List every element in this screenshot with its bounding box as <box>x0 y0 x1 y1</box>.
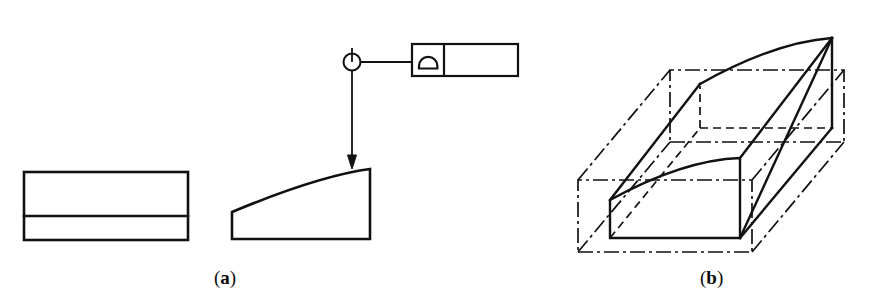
callout-box <box>412 44 518 76</box>
callout-arrow-head <box>348 155 357 169</box>
solid-front-face <box>610 158 740 238</box>
side-view-curved-profile <box>232 169 370 239</box>
figure-container: (a) (b) <box>0 0 872 306</box>
curved-wedge-solid <box>610 38 832 238</box>
caption-a-close-paren: ) <box>230 267 236 288</box>
top-view-rectangle <box>24 172 188 240</box>
solid-right-diagonal <box>740 38 832 238</box>
engineering-figure <box>0 0 872 306</box>
caption-b: (b) <box>700 267 723 289</box>
surface-finish-callout <box>344 48 413 169</box>
caption-a: (a) <box>214 267 236 289</box>
caption-b-letter: b <box>706 267 717 288</box>
caption-b-close-paren: ) <box>717 267 723 288</box>
caption-a-letter: a <box>220 267 230 288</box>
solid-back-face-curve <box>700 38 832 84</box>
solid-right-bottom-edge <box>740 128 832 238</box>
